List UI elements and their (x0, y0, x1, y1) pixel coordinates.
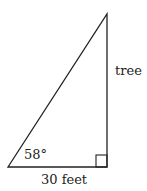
angle-label: 58° (24, 147, 47, 162)
right-triangle (8, 14, 107, 167)
right-angle-marker (96, 155, 107, 167)
base-label: 30 feet (41, 172, 88, 187)
triangle-diagram: tree 58° 30 feet (0, 0, 147, 191)
tree-label: tree (115, 63, 142, 78)
